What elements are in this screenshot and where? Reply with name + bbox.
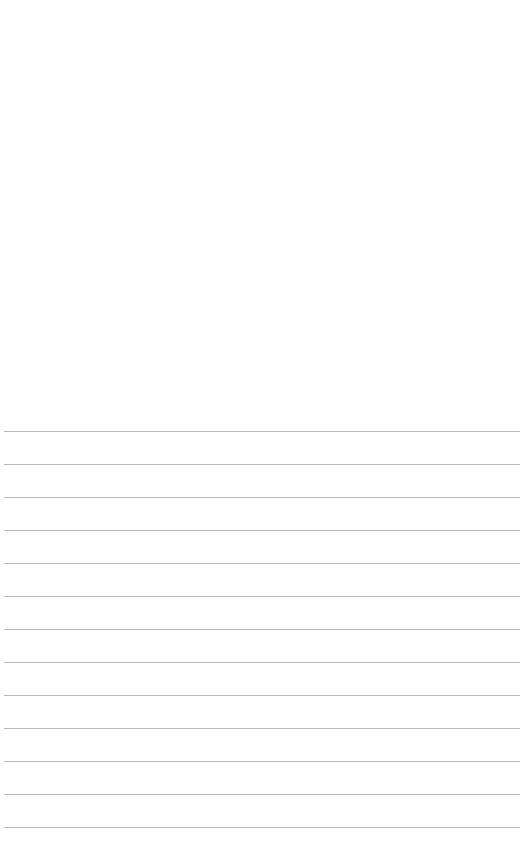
ruled-line	[4, 728, 520, 729]
ruled-line	[4, 431, 520, 432]
ruled-line	[4, 794, 520, 795]
ruled-line	[4, 563, 520, 564]
lined-paper-page	[0, 0, 523, 866]
ruled-line	[4, 761, 520, 762]
ruled-line	[4, 629, 520, 630]
ruled-line	[4, 662, 520, 663]
ruled-line	[4, 596, 520, 597]
ruled-line	[4, 695, 520, 696]
ruled-line	[4, 497, 520, 498]
ruled-line	[4, 464, 520, 465]
ruled-line	[4, 827, 520, 828]
blank-upper-area	[0, 0, 523, 425]
ruled-line	[4, 530, 520, 531]
